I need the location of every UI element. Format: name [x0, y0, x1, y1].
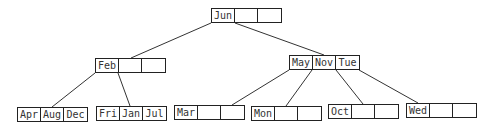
key-cell: Jan: [120, 107, 143, 120]
key-cell: [142, 59, 165, 72]
key-cell: Jun: [212, 9, 235, 22]
edge-may-leaf3: [232, 70, 289, 105]
edge-may-leaf4: [286, 70, 312, 106]
edge-root-may: [235, 23, 324, 55]
edge-feb-leaf2: [118, 73, 130, 106]
node-root: Jun: [211, 8, 282, 23]
leaf-mar: Mar: [174, 105, 245, 120]
edge-root-feb: [131, 23, 211, 58]
leaf-apr-aug-dec: Apr Aug Dec: [17, 107, 88, 122]
key-cell: [221, 106, 244, 119]
key-cell: Apr: [18, 108, 41, 121]
key-cell: Oct: [329, 105, 352, 118]
edge-may-leaf5: [336, 70, 363, 104]
node-feb: Feb: [95, 58, 166, 73]
key-cell: [235, 9, 258, 22]
edge-may-leaf6: [359, 70, 418, 103]
node-may-nov-tue: May Nov Tue: [289, 55, 360, 70]
key-cell: Wed: [407, 104, 430, 117]
key-cell: Tue: [336, 56, 359, 69]
key-cell: [119, 59, 142, 72]
key-cell: Nov: [313, 56, 336, 69]
key-cell: May: [290, 56, 313, 69]
key-cell: [258, 9, 281, 22]
key-cell: [375, 105, 398, 118]
key-cell: Mar: [175, 106, 198, 119]
key-cell: Mon: [252, 107, 275, 120]
key-cell: Feb: [96, 59, 119, 72]
leaf-wed: Wed: [406, 103, 477, 118]
leaf-mon: Mon: [251, 106, 322, 121]
key-cell: Jul: [143, 107, 166, 120]
key-cell: Aug: [41, 108, 64, 121]
key-cell: [275, 107, 298, 120]
key-cell: [453, 104, 476, 117]
key-cell: Dec: [64, 108, 87, 121]
key-cell: [198, 106, 221, 119]
leaf-fri-jan-jul: Fri Jan Jul: [96, 106, 167, 121]
key-cell: Fri: [97, 107, 120, 120]
edge-feb-leaf1: [52, 73, 95, 107]
leaf-oct: Oct: [328, 104, 399, 119]
key-cell: [352, 105, 375, 118]
key-cell: [298, 107, 321, 120]
key-cell: [430, 104, 453, 117]
